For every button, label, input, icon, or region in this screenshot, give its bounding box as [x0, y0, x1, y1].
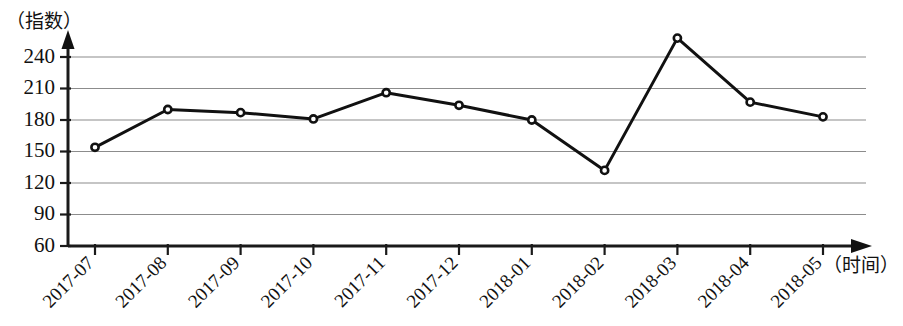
y-tick-label: 120: [24, 170, 56, 194]
data-point-marker: [455, 102, 462, 109]
data-point-marker: [747, 99, 754, 106]
x-tick-label: 2017-07: [38, 252, 98, 312]
y-tick-label: 60: [34, 233, 55, 257]
x-tick-labels-group: 2017-072017-082017-092017-102017-112017-…: [38, 252, 826, 312]
data-point-marker: [601, 167, 608, 174]
x-tick-label: 2017-11: [330, 252, 389, 311]
data-point-marker: [91, 144, 98, 151]
chart-canvas: （指数） （时间） 6090120150180210240 2017-07201…: [0, 0, 903, 326]
y-tick-label: 240: [24, 44, 56, 68]
line-chart: （指数） （时间） 6090120150180210240 2017-07201…: [0, 0, 903, 326]
x-tick-label: 2018-05: [766, 252, 826, 312]
x-tick-label: 2018-02: [548, 252, 608, 312]
data-point-marker: [164, 106, 171, 113]
y-axis-caption: （指数）: [6, 10, 82, 32]
x-axis-caption: （时间）: [823, 254, 899, 276]
x-tick-label: 2018-01: [475, 252, 535, 312]
y-axis-arrow-icon: [62, 30, 75, 49]
data-point-marker: [819, 113, 826, 120]
x-tick-label: 2017-10: [257, 252, 317, 312]
y-tick-label: 150: [24, 138, 56, 162]
y-tick-label: 210: [24, 75, 56, 99]
gridlines-group: [68, 57, 866, 215]
x-tick-label: 2018-03: [621, 252, 681, 312]
y-tick-label: 180: [24, 107, 56, 131]
x-tick-label: 2017-12: [402, 252, 462, 312]
markers-group: [91, 35, 826, 174]
x-tick-label: 2017-08: [111, 252, 171, 312]
y-tick-label: 90: [34, 201, 55, 225]
x-tick-label: 2018-04: [693, 252, 753, 312]
data-point-marker: [383, 89, 390, 96]
y-tick-group: 6090120150180210240: [24, 44, 72, 257]
data-point-marker: [528, 116, 535, 123]
data-point-marker: [674, 35, 681, 42]
x-axis-arrow-icon: [851, 239, 872, 253]
data-point-marker: [310, 115, 317, 122]
x-tick-label: 2017-09: [184, 252, 244, 312]
data-point-marker: [237, 109, 244, 116]
